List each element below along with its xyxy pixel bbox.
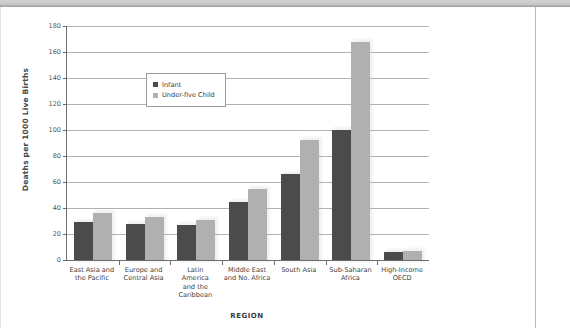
bar-infant: [384, 252, 403, 260]
x-axis-label: Sub-SaharanAfrica: [325, 266, 377, 300]
bar-group: [274, 26, 326, 260]
bar-under-five-child: [300, 140, 319, 260]
y-tick-label: 140: [49, 74, 61, 82]
x-tick-mark: [326, 260, 327, 265]
y-tick-label: 0: [57, 256, 61, 264]
y-tick-label: 80: [53, 152, 61, 160]
bar-under-five-child: [351, 42, 370, 260]
legend-swatch-infant: [153, 82, 158, 87]
bar-under-five-child: [196, 220, 215, 260]
x-tick-mark: [274, 260, 275, 265]
plot-area: 020406080100120140160180 Infant Under-fi…: [66, 26, 429, 261]
y-tick-label: 120: [49, 100, 61, 108]
y-axis-title: Deaths per 1000 Live Births: [21, 55, 30, 205]
bar-group: [326, 26, 378, 260]
x-tick-mark: [119, 260, 120, 265]
x-axis-label: LatinAmericaand theCaribbean: [169, 266, 221, 300]
bar-group: [377, 26, 429, 260]
bar-under-five-child: [93, 213, 112, 260]
x-axis-label: East Asia andthe Pacific: [66, 266, 118, 300]
y-tick-label: 180: [49, 22, 61, 30]
bar-infant: [281, 174, 300, 260]
bar-group: [119, 26, 171, 260]
legend-label-infant: Infant: [162, 81, 181, 89]
page-right-rule: [535, 7, 536, 328]
bar-under-five-child: [403, 251, 422, 260]
bar-infant: [74, 222, 93, 260]
y-tick-label: 60: [53, 178, 61, 186]
bar-infant: [126, 224, 145, 260]
y-tick-label: 40: [53, 204, 61, 212]
x-axis-label: High-IncomeOECD: [376, 266, 428, 300]
y-tick-label: 100: [49, 126, 61, 134]
scan-top-band: [0, 0, 570, 7]
legend-item-infant: Infant: [153, 81, 215, 89]
x-tick-mark: [222, 260, 223, 265]
x-tick-mark: [377, 260, 378, 265]
y-tick-mark: [63, 260, 67, 261]
bar-chart-figure: Deaths per 1000 Live Births 020406080100…: [0, 7, 535, 328]
bar-under-five-child: [248, 189, 267, 261]
bar-groups: [67, 26, 429, 260]
x-axis-label: Middle Eastand No. Africa: [221, 266, 273, 300]
legend-swatch-under-five-child: [153, 93, 158, 98]
chart-legend: Infant Under-five Child: [146, 73, 226, 107]
legend-label-under-five-child: Under-five Child: [162, 91, 215, 99]
bar-group: [170, 26, 222, 260]
x-axis-labels: East Asia andthe PacificEurope andCentra…: [66, 266, 428, 300]
legend-item-under-five-child: Under-five Child: [153, 91, 215, 99]
x-axis-label: South Asia: [273, 266, 325, 300]
y-tick-label: 160: [49, 48, 61, 56]
bar-infant: [332, 130, 351, 260]
bar-group: [222, 26, 274, 260]
bar-infant: [177, 225, 196, 260]
x-tick-mark: [170, 260, 171, 265]
bar-group: [67, 26, 119, 260]
x-axis-title: REGION: [66, 312, 428, 320]
bar-infant: [229, 202, 248, 261]
y-tick-label: 20: [53, 230, 61, 238]
x-axis-label: Europe andCentral Asia: [118, 266, 170, 300]
bar-under-five-child: [145, 217, 164, 260]
